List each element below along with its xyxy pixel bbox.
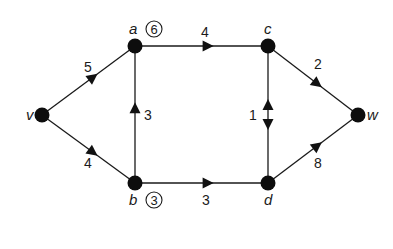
arrow-head-icon [263, 119, 274, 130]
node-v: v [26, 106, 50, 123]
arrow-head-icon [203, 41, 214, 52]
node-distance-badge: 6 [150, 22, 157, 37]
edge-weight-label: 3 [144, 107, 152, 123]
node-w: w [351, 106, 380, 123]
directed-graph: 54343128 va6b3cdw [0, 0, 393, 249]
node-dot-icon [128, 39, 143, 54]
node-dot-icon [351, 108, 366, 123]
node-b: b3 [128, 176, 163, 209]
node-label: v [26, 106, 35, 123]
edge-v-b [42, 115, 135, 183]
edge-weight-label: 1 [249, 107, 257, 123]
edge-c-w [268, 46, 358, 115]
node-label: w [367, 106, 379, 123]
edge-weight-label: 3 [202, 192, 210, 208]
edge-weight-label: 5 [84, 59, 92, 75]
edge-weight-label: 4 [84, 155, 92, 171]
arrow-head-icon [310, 142, 322, 153]
node-label: c [264, 20, 272, 37]
arrow-head-icon [85, 145, 97, 156]
node-a: a6 [128, 20, 163, 54]
arrows-layer [85, 41, 321, 189]
edge-weight-label: 8 [314, 155, 322, 171]
edge-v-a [42, 46, 135, 115]
node-dot-icon [261, 176, 276, 191]
node-dot-icon [128, 176, 143, 191]
node-distance-badge: 3 [150, 193, 157, 208]
arrow-head-icon [310, 76, 322, 87]
node-label: b [129, 191, 137, 208]
node-c: c [261, 20, 276, 54]
edge-weight-label: 2 [314, 56, 322, 72]
arrow-head-icon [263, 99, 274, 110]
node-dot-icon [261, 39, 276, 54]
node-label: a [129, 20, 137, 37]
node-d: d [261, 176, 276, 209]
node-label: d [264, 191, 273, 208]
edge-weight-label: 4 [201, 24, 209, 40]
arrow-head-icon [130, 102, 141, 113]
edge-d-w [268, 115, 358, 183]
node-dot-icon [35, 108, 50, 123]
nodes-layer: va6b3cdw [26, 20, 379, 208]
arrow-head-icon [203, 178, 214, 189]
arrow-head-icon [85, 74, 97, 85]
